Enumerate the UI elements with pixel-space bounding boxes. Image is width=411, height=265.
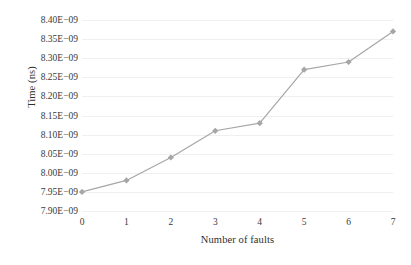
y-axis-tick-label: 8.10E−09 bbox=[26, 130, 78, 140]
x-axis-tick-label: 4 bbox=[247, 216, 273, 228]
series-polyline bbox=[82, 31, 393, 191]
y-axis-tick-label: 8.05E−09 bbox=[26, 149, 78, 159]
y-axis-tick-label: 8.40E−09 bbox=[26, 15, 78, 25]
data-point-marker bbox=[123, 177, 129, 183]
x-axis-tick-label: 6 bbox=[336, 216, 362, 228]
data-point-marker bbox=[168, 154, 174, 160]
gridline bbox=[82, 211, 393, 212]
data-point-marker bbox=[212, 128, 218, 134]
x-axis-tick-label: 7 bbox=[380, 216, 406, 228]
x-axis-title: Number of faults bbox=[82, 234, 393, 245]
x-axis-tick-label: 3 bbox=[202, 216, 228, 228]
x-axis-tick-labels: 01234567 bbox=[0, 216, 411, 230]
x-axis-tick-label: 5 bbox=[291, 216, 317, 228]
y-axis-tick-label: 8.15E−09 bbox=[26, 111, 78, 121]
y-axis-tick-label: 7.90E−09 bbox=[26, 206, 78, 216]
y-axis-tick-label: 8.30E−09 bbox=[26, 53, 78, 63]
y-axis-tick-label: 8.35E−09 bbox=[26, 34, 78, 44]
series-line-time bbox=[82, 20, 393, 211]
y-axis-tick-label: 8.25E−09 bbox=[26, 72, 78, 82]
y-axis-tick-label: 8.00E−09 bbox=[26, 168, 78, 178]
series-markers bbox=[79, 28, 396, 195]
y-axis-tick-label: 8.20E−09 bbox=[26, 91, 78, 101]
line-chart: Time (ns) 8.40E−098.35E−098.30E−098.25E−… bbox=[0, 0, 411, 265]
x-axis-tick-label: 1 bbox=[113, 216, 139, 228]
data-point-marker bbox=[79, 189, 85, 195]
plot-area bbox=[82, 20, 393, 211]
x-axis-tick-label: 0 bbox=[69, 216, 95, 228]
y-axis-tick-label: 7.95E−09 bbox=[26, 187, 78, 197]
x-axis-tick-label: 2 bbox=[158, 216, 184, 228]
